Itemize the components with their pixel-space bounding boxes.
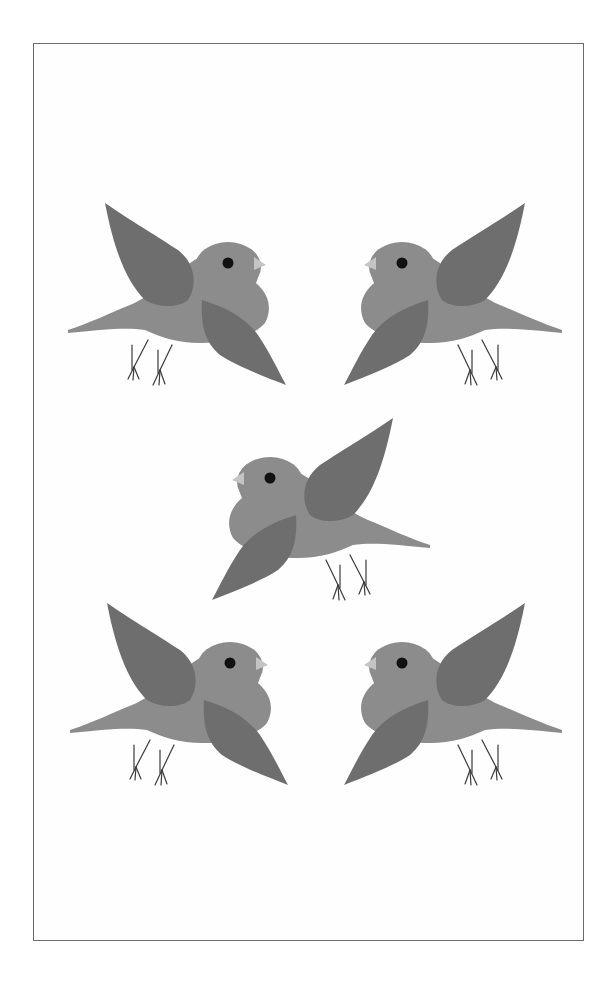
bird-icon — [62, 595, 302, 795]
bird-center — [198, 410, 438, 610]
bird-icon — [330, 595, 570, 795]
bird-bottom-left — [62, 595, 302, 795]
bird-icon — [330, 195, 570, 395]
bird-top-right — [330, 195, 570, 395]
bird-bottom-right — [330, 595, 570, 795]
bird-top-left — [60, 195, 300, 395]
bird-icon — [198, 410, 438, 610]
bird-icon — [60, 195, 300, 395]
